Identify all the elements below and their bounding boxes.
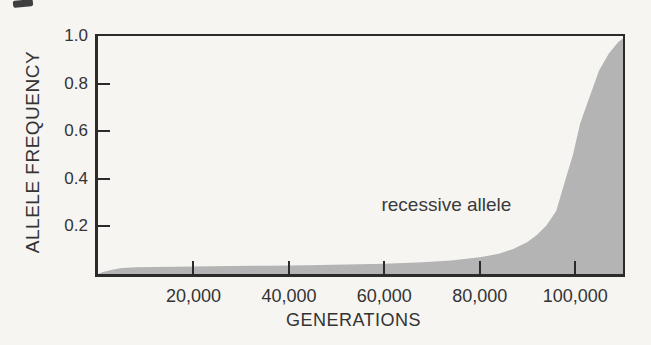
y-axis-label: ALLELE FREQUENCY [22,32,44,272]
y-tick-label: 0.2 [50,216,88,236]
x-tick-label: 20,000 [166,286,221,307]
x-tick-mark [574,261,576,274]
y-tick-label: 1.0 [50,26,88,46]
series-annotation: recessive allele [381,194,511,216]
x-tick-label: 80,000 [452,286,507,307]
y-tick-mark [98,225,110,227]
plot-area [95,34,625,277]
y-tick-mark [98,130,110,132]
y-tick-mark [98,178,110,180]
x-tick-label: 60,000 [357,286,412,307]
y-tick-mark [98,83,110,85]
chart-figure: ALLELE FREQUENCY recessive allele GENERA… [0,0,651,345]
x-tick-label: 100,000 [543,286,608,307]
x-tick-mark [383,261,385,274]
print-artifact-mark [13,0,34,8]
x-tick-mark [192,261,194,274]
area-chart-canvas [98,36,623,274]
x-tick-label: 40,000 [261,286,316,307]
y-tick-label: 0.8 [50,74,88,94]
recessive-allele-area [98,38,623,274]
y-tick-label: 0.6 [50,121,88,141]
y-tick-label: 0.4 [50,169,88,189]
x-tick-mark [288,261,290,274]
x-axis-label: GENERATIONS [286,310,421,331]
x-tick-mark [479,261,481,274]
